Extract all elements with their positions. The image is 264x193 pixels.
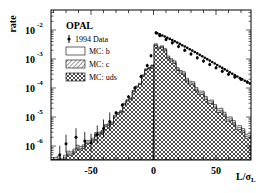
data-point	[206, 58, 209, 61]
data-point	[158, 33, 161, 36]
data-point	[196, 56, 199, 60]
data-point	[202, 59, 205, 63]
data-point	[196, 52, 199, 55]
data-point	[177, 45, 180, 49]
y-axis-label: rate	[7, 15, 18, 33]
data-point	[75, 128, 78, 146]
svg-text:1994 Data: 1994 Data	[75, 35, 109, 44]
data-point	[246, 81, 249, 84]
svg-text:MC: b: MC: b	[89, 47, 110, 56]
y-tick-label: 10-3	[25, 50, 43, 65]
x-tick-label: 0	[151, 165, 156, 176]
x-tick-label: 50	[211, 165, 221, 176]
data-point	[150, 54, 153, 58]
data-point	[203, 56, 206, 59]
svg-text:10: 10	[25, 141, 35, 152]
data-point	[183, 49, 186, 53]
svg-text:-3: -3	[37, 50, 43, 58]
data-point	[171, 39, 174, 42]
data-point	[193, 51, 196, 54]
data-point	[241, 78, 244, 81]
data-point	[161, 34, 164, 37]
data-point	[171, 41, 174, 45]
data-point	[231, 72, 234, 75]
data-point	[233, 74, 236, 77]
data-point	[228, 71, 231, 74]
data-point	[236, 75, 239, 78]
x-tick-label: -50	[84, 165, 97, 176]
data-point	[223, 68, 226, 71]
data-point	[146, 64, 149, 68]
chart: -5005010-210-310-410-510-6 rate L/σL OPA…	[0, 0, 264, 193]
data-point	[226, 70, 229, 73]
y-tick-label: 10-4	[25, 79, 43, 94]
data-point	[163, 35, 166, 38]
svg-text:10: 10	[25, 112, 35, 123]
data-point	[173, 40, 176, 43]
data-point	[176, 41, 179, 44]
legend-item-mc-b: MC: b	[66, 47, 110, 56]
data-point	[190, 52, 193, 56]
data-point	[186, 47, 189, 50]
data-point	[166, 36, 169, 39]
data-point	[216, 64, 219, 67]
svg-text:MC: c: MC: c	[89, 60, 110, 69]
data-point	[218, 65, 221, 68]
data-point	[208, 63, 211, 67]
data-point	[178, 43, 181, 46]
data-point	[215, 66, 218, 70]
data-point	[181, 44, 184, 47]
data-point	[198, 54, 201, 57]
legend: OPAL 1994 Data MC: b MC: c MC: uds	[66, 20, 117, 82]
data-point	[58, 146, 61, 164]
y-tick-label: 10-5	[25, 108, 43, 123]
svg-text:10: 10	[25, 83, 35, 94]
data-point	[65, 135, 68, 153]
data-point	[238, 77, 241, 80]
data-point	[168, 38, 171, 41]
svg-text:-2: -2	[37, 21, 43, 29]
mc-uds-histogram	[154, 46, 251, 160]
svg-text:MC: uds: MC: uds	[89, 73, 117, 82]
svg-text:-6: -6	[37, 137, 43, 145]
data-point	[188, 48, 191, 51]
legend-item-mc-uds: MC: uds	[66, 73, 117, 82]
svg-text:10: 10	[25, 54, 35, 65]
svg-text:10: 10	[25, 25, 35, 36]
y-tick-label: 10-6	[25, 137, 43, 152]
x-axis-label: L/σL	[236, 171, 256, 184]
data-point	[221, 69, 224, 73]
y-tick-label: 10-2	[25, 21, 43, 36]
data-point	[243, 79, 246, 82]
legend-item-data: 1994 Data	[67, 35, 108, 44]
data-point	[183, 45, 186, 48]
data-point	[156, 32, 159, 35]
data-point	[201, 55, 204, 58]
data-point	[213, 62, 216, 65]
marker-icon	[67, 37, 70, 40]
data-point	[191, 49, 194, 52]
legend-item-mc-c: MC: c	[66, 60, 110, 69]
legend-header: OPAL	[66, 20, 93, 31]
data-point	[208, 59, 211, 62]
data-point	[221, 67, 224, 70]
data-point	[211, 61, 214, 64]
svg-text:-4: -4	[37, 79, 43, 87]
svg-text:-5: -5	[37, 108, 43, 116]
